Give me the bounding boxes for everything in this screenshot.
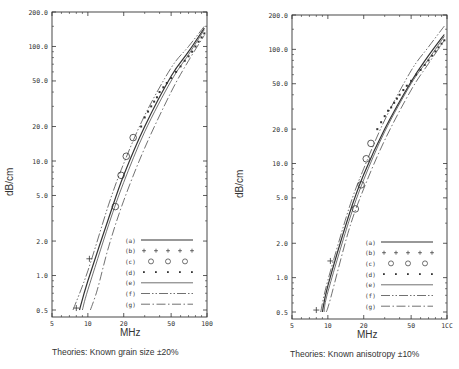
x-tick-label: 50 [407,322,415,330]
plot-area-anisotropy: 200.0100.050.020.010.05.02.01.00.5510205… [230,0,459,369]
legend-key: (b) [125,247,136,254]
y-tick-label: 200.0 [268,12,288,20]
x-axis-label: MHz [357,329,378,340]
y-tick-label: 50.0 [272,80,288,88]
y-tick-label: 50.0 [32,77,48,85]
chart-caption: Theories: Known grain size ±20% [52,347,179,357]
x-axis-label: MHz [120,327,141,338]
legend-key: (c) [365,260,376,267]
y-tick-label: 100.0 [268,46,288,54]
series-group [313,26,445,313]
chart-caption: Theories: Known anisotropy ±10% [290,349,419,359]
legend-key: (a) [365,239,376,246]
legend-key: (d) [365,271,376,278]
y-axis-label: dB/cm [4,168,15,196]
y-tick-label: 10.0 [272,160,288,168]
y-tick-label: 1.0 [276,274,288,282]
legend-key: (f) [125,290,136,297]
legend-key: (b) [365,249,376,256]
y-axis-label: dB/cm [234,170,245,198]
x-tick-label: 100 [201,320,213,328]
x-tick-label: 10 [84,320,92,328]
x-tick-label: 10 [324,322,332,330]
y-tick-label: 100.0 [28,43,48,51]
legend: (a)(b)(c)(d)(e)(f)(g) [365,239,434,311]
y-tick-label: 20.0 [32,123,48,131]
x-tick-label: 50 [167,320,175,328]
x-tick-label: 5 [290,322,294,330]
legend-key: (a) [125,237,136,244]
legend: (a)(b)(c)(d)(e)(f)(g) [125,237,194,309]
x-tick-label: 1CC [441,322,453,330]
legend-key: (f) [365,292,376,299]
y-tick-label: 1.0 [36,272,48,280]
y-tick-label: 20.0 [272,126,288,134]
legend-key: (e) [125,279,136,286]
chart-panel-anisotropy: 200.0100.050.020.010.05.02.01.00.5510205… [230,0,459,369]
legend-key: (g) [125,301,136,309]
legend-key: (g) [365,303,376,311]
series-group [73,26,205,311]
legend-key: (c) [125,258,136,265]
y-tick-label: 5.0 [36,192,48,200]
y-tick-label: 0.5 [276,309,288,317]
y-tick-label: 10.0 [32,158,48,166]
plot-area-grain-size: 200.0100.050.020.010.05.02.01.00.5510205… [0,0,230,369]
legend-key: (e) [365,281,376,288]
x-tick-label: 5 [50,320,54,328]
y-tick-label: 200.0 [28,9,48,17]
legend-key: (d) [125,269,136,276]
y-tick-label: 5.0 [276,194,288,202]
y-tick-label: 2.0 [36,238,48,246]
y-tick-label: 2.0 [276,240,288,248]
y-tick-label: 0.5 [36,307,48,315]
chart-panel-grain-size: 200.0100.050.020.010.05.02.01.00.5510205… [0,0,230,369]
